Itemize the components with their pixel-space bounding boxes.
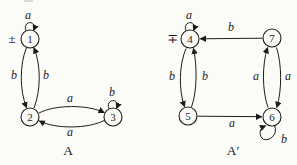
edge-2-1-label: b — [43, 68, 49, 82]
start-accept-marker-a-prime: ∓ — [168, 31, 179, 46]
state-4-label: 4 — [187, 33, 193, 45]
edge-6-to-7 — [263, 48, 268, 108]
edge-2-to-3 — [39, 107, 104, 113]
caption-a: A — [63, 143, 73, 158]
edge-3-2-label: a — [67, 125, 73, 139]
loop-3-label: b — [109, 85, 115, 99]
edge-4-5-label: b — [169, 69, 175, 83]
automata-diagram: a b b a a b 1 2 3 ± A — [0, 0, 297, 165]
automaton-a-prime: a b b b a a a b 4 5 6 — [168, 8, 291, 158]
edge-5-6-label: a — [229, 116, 235, 130]
edge-1-to-2 — [21, 48, 26, 108]
self-loop-state-6 — [260, 125, 275, 139]
edge-6-7-label: a — [253, 69, 259, 83]
caption-a-prime: A′ — [227, 143, 240, 158]
state-1-label: 1 — [27, 33, 33, 45]
edge-1-2-label: b — [11, 68, 17, 82]
edge-7-to-4 — [201, 38, 263, 39]
loop-4-label: a — [186, 8, 192, 22]
edge-7-to-6 — [277, 48, 281, 108]
edge-5-4-label: b — [202, 69, 208, 83]
edge-2-to-1 — [34, 48, 39, 108]
state-7-label: 7 — [269, 32, 275, 44]
loop-6-label: b — [281, 132, 287, 146]
edge-7-6-label: a — [285, 69, 291, 83]
edge-7-4-label: b — [228, 20, 234, 34]
automata-figure: a b b a a b 1 2 3 ± A — [0, 0, 297, 165]
state-2-label: 2 — [27, 111, 33, 123]
state-5-label: 5 — [185, 110, 191, 122]
edge-2-3-label: a — [67, 91, 73, 105]
edge-4-to-5 — [180, 49, 186, 107]
start-accept-marker-a: ± — [8, 31, 15, 46]
scan-crop-artifact — [24, 0, 33, 2]
automaton-a: a b b a a b 1 2 3 ± A — [8, 8, 122, 158]
edge-5-to-4 — [192, 49, 197, 107]
state-6-label: 6 — [269, 111, 275, 123]
loop-1-label: a — [25, 8, 31, 22]
state-3-label: 3 — [110, 111, 116, 123]
